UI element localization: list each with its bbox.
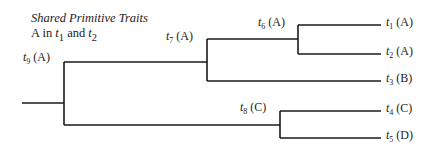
node-label-t8: t8 (C) — [240, 101, 266, 116]
phylogenetic-tree-diagram: Shared Primitive Traits A in t1 and t2 t… — [0, 0, 441, 151]
node-label-t6: t6 (A) — [258, 16, 285, 31]
caption-title: Shared Primitive Traits — [31, 11, 148, 26]
leaf-label-t1: t1 (A) — [386, 16, 413, 31]
leaf-label-t2: t2 (A) — [386, 45, 413, 60]
caption: Shared Primitive Traits A in t1 and t2 — [31, 11, 148, 45]
leaf-label-t3: t3 (B) — [386, 72, 412, 87]
caption-subtitle: A in t1 and t2 — [31, 26, 148, 45]
leaf-label-t5: t5 (D) — [386, 129, 413, 144]
node-label-t7: t7 (A) — [166, 30, 193, 45]
node-label-t9: t9 (A) — [23, 51, 50, 66]
leaf-label-t4: t4 (C) — [386, 102, 412, 117]
